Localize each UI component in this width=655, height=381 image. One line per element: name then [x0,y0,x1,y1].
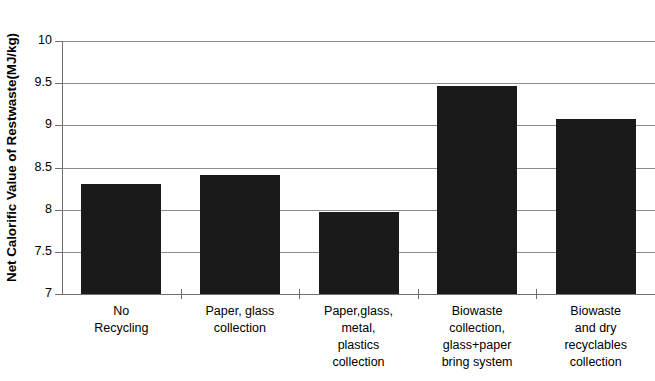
x-axis-category-label: Paper,glass,metal,plasticscollection [299,303,418,371]
y-axis-tick [55,83,63,84]
y-axis-tick [55,168,63,169]
y-axis-tick-labels: 109.598.587.57 [0,0,52,381]
y-axis-tick [55,210,63,211]
x-axis-category-labels: NoRecyclingPaper, glasscollectionPaper,g… [62,303,655,381]
x-axis-category-label-line: bring system [418,354,537,371]
y-axis-tick-label: 10 [4,34,52,47]
x-axis-tick [181,289,182,299]
x-axis-category-label-line: collection [536,354,655,371]
x-axis-category-label-line: collection, [418,320,537,337]
x-axis-tick [536,289,537,299]
x-axis-category-label-line: collection [299,354,418,371]
gridline [62,83,655,84]
bar [319,212,399,294]
x-axis-category-label-line: glass+paper [418,337,537,354]
x-axis-category-label: Biowastecollection,glass+paperbring syst… [418,303,537,371]
y-axis-tick-label: 8 [4,203,52,216]
x-axis-category-label-line: No [62,303,181,320]
y-axis-tick-label: 7.5 [4,245,52,258]
bar [200,175,280,294]
y-axis-tick-label: 7 [4,287,52,300]
x-axis-category-label-line: Biowaste [536,303,655,320]
y-axis-tick [55,294,63,295]
x-axis-tick [418,289,419,299]
x-axis-category-label-line: collection [181,320,300,337]
x-axis-category-label-line: Paper, glass [181,303,300,320]
gridline [62,41,655,42]
y-axis-tick [55,125,63,126]
x-axis-category-label-line: plastics [299,337,418,354]
y-axis-tick-label: 9 [4,118,52,131]
x-axis-category-label-line: Recycling [62,320,181,337]
x-axis-category-label-line: Biowaste [418,303,537,320]
x-axis-category-label: Paper, glasscollection [181,303,300,337]
plot-area [62,41,655,294]
x-axis-line [55,294,655,295]
x-axis-tick [299,289,300,299]
y-axis-tick [55,252,63,253]
x-axis-category-label: NoRecycling [62,303,181,337]
x-axis-category-label-line: metal, [299,320,418,337]
x-axis-category-label: Biowasteand dryrecyclablescollection [536,303,655,371]
y-axis-tick [55,41,63,42]
bar-chart: Net Calorific Value of Restwaste(MJ/kg) … [0,0,655,381]
bar [81,184,161,294]
y-axis-tick-label: 9.5 [4,76,52,89]
x-axis-category-label-line: recyclables [536,337,655,354]
bar [556,119,636,294]
x-axis-category-label-line: Paper,glass, [299,303,418,320]
x-axis-category-label-line: and dry [536,320,655,337]
bar [437,86,517,294]
y-axis-tick-label: 8.5 [4,161,52,174]
